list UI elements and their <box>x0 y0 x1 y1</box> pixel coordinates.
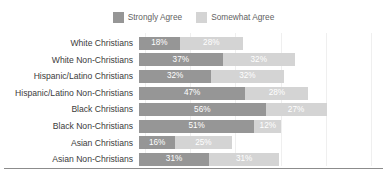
bar-value-label: 32% <box>167 72 183 80</box>
bar-value-label: 28% <box>269 89 285 97</box>
bar-row: Black Non-Christians51%12% <box>0 118 387 135</box>
bar-value-label: 56% <box>194 106 210 114</box>
legend-entry[interactable]: Somewhat Agree <box>196 12 274 23</box>
bar-value-label: 18% <box>151 39 167 47</box>
category-label: Black Non-Christians <box>0 122 139 131</box>
legend-label: Strongly Agree <box>128 13 182 21</box>
stacked-bar[interactable]: 16%25% <box>139 136 387 149</box>
bar-value-label: 28% <box>203 39 219 47</box>
category-label: White Non-Christians <box>0 56 139 65</box>
bar-segment[interactable]: 32% <box>223 53 295 66</box>
bar-row: Hispanic/Latino Non-Christians47%28% <box>0 85 387 102</box>
stacked-bar[interactable]: 31%31% <box>139 153 387 166</box>
legend-swatch-strongly-agree <box>113 12 124 23</box>
bar-rows: White Christians18%28%White Non-Christia… <box>0 33 387 166</box>
bar-segment[interactable]: 12% <box>254 120 281 133</box>
category-label: Asian Christians <box>0 139 139 148</box>
bar-segment[interactable]: 32% <box>211 70 283 83</box>
stacked-bar[interactable]: 37%32% <box>139 53 387 66</box>
bar-segment[interactable]: 18% <box>139 37 180 50</box>
legend-swatch-somewhat-agree <box>196 12 207 23</box>
legend-entry[interactable]: Strongly Agree <box>113 12 182 23</box>
category-label: Hispanic/Latino Christians <box>0 72 139 81</box>
bar-segment[interactable]: 16% <box>139 136 175 149</box>
bar-value-label: 27% <box>288 106 304 114</box>
bar-segment[interactable]: 51% <box>139 120 254 133</box>
bar-value-label: 51% <box>188 122 204 130</box>
category-label: White Christians <box>0 39 139 48</box>
bar-row: White Non-Christians37%32% <box>0 52 387 69</box>
plot-area: White Christians18%28%White Non-Christia… <box>0 33 387 166</box>
bar-row: Asian Non-Christians31%31% <box>0 151 387 168</box>
stacked-bar-chart: Strongly AgreeSomewhat Agree White Chris… <box>0 0 387 176</box>
legend-label: Somewhat Agree <box>211 13 274 21</box>
bar-segment[interactable]: 25% <box>175 136 232 149</box>
bar-row: Hispanic/Latino Christians32%32% <box>0 68 387 85</box>
bottom-divider <box>4 168 383 169</box>
bar-segment[interactable]: 47% <box>139 87 245 100</box>
bar-value-label: 12% <box>260 122 276 130</box>
bar-value-label: 32% <box>251 56 267 64</box>
category-label: Asian Non-Christians <box>0 155 139 164</box>
stacked-bar[interactable]: 47%28% <box>139 87 387 100</box>
bar-value-label: 25% <box>195 139 211 147</box>
stacked-bar[interactable]: 56%27% <box>139 103 387 116</box>
stacked-bar[interactable]: 51%12% <box>139 120 387 133</box>
bar-row: Asian Christians16%25% <box>0 135 387 152</box>
bar-value-label: 47% <box>184 89 200 97</box>
bar-segment[interactable]: 27% <box>266 103 327 116</box>
bar-segment[interactable]: 37% <box>139 53 223 66</box>
category-label: Black Christians <box>0 105 139 114</box>
bar-row: White Christians18%28% <box>0 35 387 52</box>
bar-value-label: 32% <box>239 72 255 80</box>
bar-segment[interactable]: 32% <box>139 70 211 83</box>
bar-segment[interactable]: 31% <box>209 153 279 166</box>
chart-legend: Strongly AgreeSomewhat Agree <box>0 12 387 23</box>
bar-segment[interactable]: 31% <box>139 153 209 166</box>
bar-segment[interactable]: 28% <box>180 37 243 50</box>
bar-value-label: 31% <box>236 155 252 163</box>
bar-segment[interactable]: 28% <box>245 87 308 100</box>
category-label: Hispanic/Latino Non-Christians <box>0 89 139 98</box>
stacked-bar[interactable]: 32%32% <box>139 70 387 83</box>
bar-value-label: 16% <box>149 139 165 147</box>
bar-value-label: 31% <box>166 155 182 163</box>
bar-value-label: 37% <box>173 56 189 64</box>
bar-segment[interactable]: 56% <box>139 103 266 116</box>
stacked-bar[interactable]: 18%28% <box>139 37 387 50</box>
bar-row: Black Christians56%27% <box>0 101 387 118</box>
